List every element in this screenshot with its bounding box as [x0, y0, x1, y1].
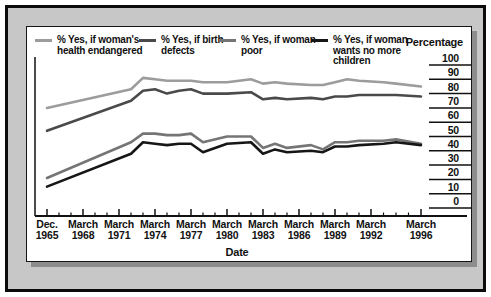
y-tick-label: 60 [448, 109, 460, 121]
chart-plot: Dec.1965March1968March1971March1974March… [27, 27, 471, 261]
x-tick-label: Dec.1965 [36, 218, 59, 241]
x-tick-label: March1980 [212, 218, 242, 241]
y-tick-label: 50 [448, 124, 460, 136]
x-tick-label: March1971 [104, 218, 134, 241]
chart-panel: % Yes, if woman's health endangered % Ye… [26, 26, 472, 262]
y-tick-label: 80 [448, 81, 460, 93]
y-tick-label: 70 [448, 95, 460, 107]
x-tick-label: March1996 [406, 218, 436, 241]
x-tick-label: March1986 [284, 218, 314, 241]
x-tick-label: March1992 [356, 218, 386, 241]
y-tick-label: 40 [448, 138, 460, 150]
x-tick-label: March1989 [320, 218, 350, 241]
x-tick-label: March1983 [248, 218, 278, 241]
series-line-4 [47, 142, 421, 186]
x-tick-label: March1974 [140, 218, 170, 241]
y-tick-label: 0 [453, 195, 459, 207]
x-tick-label: March1977 [176, 218, 206, 241]
x-tick-label: March1968 [68, 218, 98, 241]
y-tick-label: 30 [448, 152, 460, 164]
y-tick-label: 10 [448, 181, 460, 193]
figure: % Yes, if woman's health endangered % Ye… [0, 0, 491, 297]
x-axis-title: Date [27, 246, 447, 258]
y-tick-label: 100 [442, 52, 459, 64]
y-tick-label: 90 [448, 66, 460, 78]
y-tick-label: 20 [448, 166, 460, 178]
series-line-3 [47, 134, 421, 178]
